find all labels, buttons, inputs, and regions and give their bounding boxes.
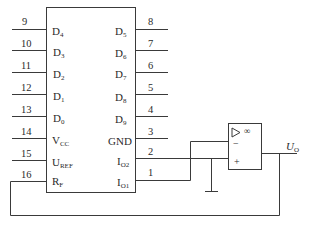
signal-uref: UREF [52, 157, 73, 172]
pin-number-6: 6 [148, 60, 153, 71]
opamp-noninverting-symbol: + [234, 156, 240, 167]
signal-d3: D3 [53, 47, 64, 62]
signal-d2: D2 [53, 69, 64, 84]
pin-number-4: 4 [148, 104, 153, 115]
pin-number-12: 12 [21, 82, 32, 93]
signal-d8: D8 [115, 92, 126, 107]
opamp-gain-symbol: ∞ [244, 126, 250, 137]
signal-d4: D4 [52, 26, 63, 41]
pin-number-5: 5 [148, 82, 153, 93]
signal-d5: D5 [115, 26, 126, 41]
pin-number-14: 14 [21, 126, 32, 137]
signal-d6: D6 [115, 48, 126, 63]
opamp-inverting-symbol: − [233, 138, 239, 149]
pin-number-11: 11 [21, 60, 31, 71]
pin-number-8: 8 [148, 16, 153, 27]
pin-number-15: 15 [21, 148, 32, 159]
signal-d1: D1 [53, 91, 64, 106]
signal-d0: D0 [53, 113, 64, 128]
signal-io1: IO1 [117, 177, 129, 192]
pin-number-9: 9 [22, 16, 27, 27]
pin-number-1: 1 [148, 167, 153, 178]
signal-io2: IO2 [117, 156, 129, 171]
pin-number-3: 3 [148, 126, 153, 137]
signal-d7: D7 [115, 69, 126, 84]
signal-vcc: VCC [52, 135, 69, 150]
pin-number-7: 7 [148, 38, 153, 49]
output-label: UO [286, 141, 299, 156]
signal-rf: RF [52, 176, 63, 191]
opamp-triangle-icon [232, 128, 240, 137]
signal-gnd: GND [108, 136, 132, 151]
pin-number-10: 10 [21, 38, 32, 49]
pin-number-2: 2 [148, 146, 153, 157]
pin-number-16: 16 [21, 169, 32, 180]
pin-number-13: 13 [21, 104, 32, 115]
signal-d9: D9 [115, 114, 126, 129]
